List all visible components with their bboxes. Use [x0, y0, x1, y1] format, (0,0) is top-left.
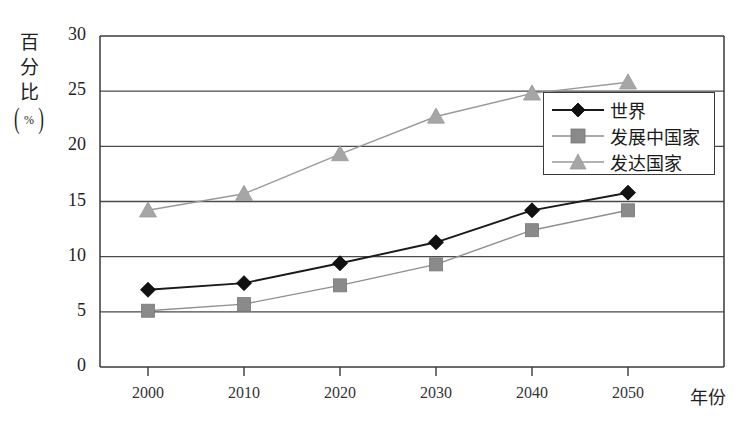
datapoint-发展中国家-5[interactable]	[622, 204, 635, 217]
legend-key-triangle-icon	[550, 152, 606, 172]
legend-label-developing: 发展中国家	[610, 123, 700, 149]
legend-label-developed: 发达国家	[610, 149, 682, 175]
legend-key-diamond-icon	[550, 100, 606, 120]
legend-key-svg-发展中国家	[550, 126, 606, 146]
datapoint-发展中国家-0[interactable]	[142, 304, 155, 317]
datapoint-发达国家-1[interactable]	[236, 185, 253, 200]
legend-label-world: 世界	[610, 97, 646, 123]
legend-key-svg-世界	[550, 100, 606, 120]
datapoint-世界-2[interactable]	[333, 256, 348, 271]
plot-area	[0, 0, 752, 436]
datapoint-发展中国家-2[interactable]	[334, 279, 347, 292]
legend-item-developed[interactable]: 发达国家	[544, 149, 714, 175]
datapoint-世界-1[interactable]	[237, 276, 252, 291]
datapoint-发展中国家-3[interactable]	[430, 258, 443, 271]
chart-container: 百 分 比 ( % ) 051015202530 200020102020203…	[0, 0, 752, 436]
series-line-发展中国家	[148, 210, 628, 310]
legend-key-square-icon	[550, 126, 606, 146]
datapoint-发达国家-2[interactable]	[332, 146, 349, 161]
datapoint-世界-5[interactable]	[621, 185, 636, 200]
legend-item-world[interactable]: 世界	[544, 97, 714, 123]
datapoint-发达国家-5[interactable]	[620, 74, 637, 89]
legend: 世界 发展中国家 发达国家	[543, 92, 715, 175]
datapoint-发展中国家-4[interactable]	[526, 224, 539, 237]
datapoint-发展中国家-1[interactable]	[238, 298, 251, 311]
datapoint-世界-4[interactable]	[525, 203, 540, 218]
datapoint-世界-0[interactable]	[141, 282, 156, 297]
legend-item-developing[interactable]: 发展中国家	[544, 123, 714, 149]
datapoint-世界-3[interactable]	[429, 235, 444, 250]
legend-key-svg-发达国家	[550, 152, 606, 172]
